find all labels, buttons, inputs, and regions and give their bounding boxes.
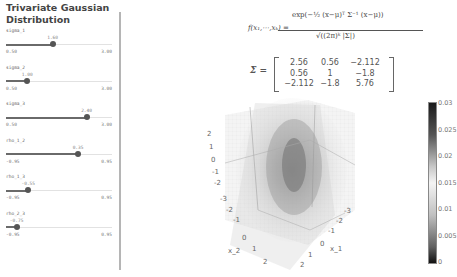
- slider-rho-1-3[interactable]: rho_1_3 -0.55 -0.95 0.95: [6, 174, 112, 210]
- 3d-volume-plot[interactable]: 2 1 0 -1 -2 -3 -2 -1 0 1 2 x_2 2 1 0 -1 …: [200, 95, 415, 277]
- colorbar-tick: 0.015: [438, 179, 457, 187]
- slider-label: sigma_2: [6, 65, 25, 70]
- matrix-cell: 0.56: [317, 58, 343, 69]
- x2-axis-label: x_2: [228, 247, 240, 255]
- slider-min: -0.95: [6, 232, 20, 237]
- slider-thumb[interactable]: [25, 187, 31, 193]
- colorbar-tick: 0.02: [438, 152, 452, 160]
- z-tick: -2: [214, 179, 221, 187]
- colorbar-tick: 0.03: [438, 99, 452, 107]
- matrix-grid: 2.560.56−2.1120.561−1.8−2.112−1.85.76: [281, 58, 387, 90]
- slider-min: -0.95: [6, 159, 20, 164]
- x1-tick: 1: [308, 251, 312, 259]
- slider-value: -0.55: [21, 181, 35, 186]
- slider-fill: [6, 153, 78, 155]
- x2-tick: -2: [226, 206, 233, 214]
- slider-label: rho_1_2: [6, 138, 25, 143]
- colorbar-tick: 0.01: [438, 205, 452, 213]
- pdf-formula: f(x₁,⋯,xₖ) = exp(−½ (x−μ)ᵀ Σ⁻¹ (x−μ)) √(…: [248, 8, 428, 58]
- x2-tick: -1: [233, 216, 240, 224]
- x2-tick: 0: [242, 234, 246, 242]
- slider-min: 0.50: [6, 86, 17, 91]
- slider-thumb[interactable]: [24, 78, 30, 84]
- formula-lhs: f(x₁,⋯,xₖ) =: [248, 24, 289, 32]
- x1-tick: -1: [328, 227, 335, 235]
- matrix-cell: −1.8: [343, 69, 387, 80]
- slider-max: 3.00: [101, 86, 112, 91]
- slider-track[interactable]: [6, 227, 112, 228]
- colorbar-tick: 0.025: [438, 126, 457, 134]
- colorbar-tick: 0: [438, 258, 442, 266]
- z-tick: -1: [212, 168, 219, 176]
- matrix-cell: −2.112: [281, 79, 317, 90]
- x2-tick: 2: [263, 258, 267, 266]
- slider-max: 3.00: [101, 49, 112, 54]
- slider-thumb[interactable]: [14, 224, 20, 230]
- colorbar: [428, 102, 437, 264]
- slider-label: rho_2_3: [6, 211, 25, 216]
- matrix-label: Σ =: [250, 65, 267, 75]
- z-tick: 2: [207, 130, 211, 138]
- slider-min: 0.50: [6, 122, 17, 127]
- slider-thumb[interactable]: [50, 41, 56, 47]
- slider-value: -0.75: [10, 218, 24, 223]
- colorbar-tick: 0.005: [438, 232, 457, 240]
- z-tick: 1: [209, 143, 213, 151]
- x2-tick: 1: [252, 245, 256, 253]
- slider-sigma-3[interactable]: sigma_3 2.40 0.50 3.00: [6, 101, 112, 137]
- slider-value: 1.00: [22, 72, 33, 77]
- left-bracket: [274, 57, 279, 92]
- matrix-cell: 0.56: [281, 69, 317, 80]
- formula-denominator: √((2π)ᵏ |Σ|): [316, 32, 355, 40]
- z-tick: 0: [211, 156, 215, 164]
- fraction-bar: [278, 30, 423, 31]
- controls-sidebar: Trivariate Gaussian Distribution sigma_1…: [0, 0, 118, 277]
- x1-tick: -2: [336, 217, 343, 225]
- slider-rho-2-3[interactable]: rho_2_3 -0.75 -0.95 0.95: [6, 211, 112, 247]
- app-title: Trivariate Gaussian Distribution: [6, 2, 116, 26]
- slider-sigma-1[interactable]: sigma_1 1.60 0.50 3.00: [6, 28, 112, 64]
- slider-min: 0.50: [6, 49, 17, 54]
- slider-max: 0.95: [101, 159, 112, 164]
- slider-max: 0.95: [101, 195, 112, 200]
- slider-label: sigma_1: [6, 28, 25, 33]
- matrix-cell: 1: [317, 69, 343, 80]
- matrix-cell: −1.8: [317, 79, 343, 90]
- slider-label: rho_1_3: [6, 174, 25, 179]
- slider-label: sigma_3: [6, 101, 25, 106]
- slider-value: 2.40: [81, 108, 92, 113]
- x2-tick: -3: [220, 195, 227, 203]
- right-bracket: [389, 57, 394, 92]
- slider-min: -0.95: [6, 195, 20, 200]
- slider-rho-1-2[interactable]: rho_1_2 0.35 -0.95 0.95: [6, 138, 112, 174]
- slider-sigma-2[interactable]: sigma_2 1.00 0.50 3.00: [6, 65, 112, 101]
- slider-fill: [6, 117, 87, 119]
- slider-value: 1.60: [47, 35, 58, 40]
- slider-thumb[interactable]: [75, 151, 81, 157]
- x1-axis-label: x_1: [330, 245, 342, 253]
- slider-max: 0.95: [101, 232, 112, 237]
- x1-tick: 0: [320, 240, 324, 248]
- slider-fill: [6, 44, 53, 46]
- x1-tick: -3: [344, 207, 351, 215]
- formula-numerator: exp(−½ (x−μ)ᵀ Σ⁻¹ (x−μ)): [292, 11, 383, 19]
- matrix-cell: 2.56: [281, 58, 317, 69]
- matrix-cell: 5.76: [343, 79, 387, 90]
- slider-max: 3.00: [101, 122, 112, 127]
- sidebar-divider[interactable]: [119, 12, 121, 270]
- x1-tick: 2: [300, 261, 304, 269]
- matrix-cell: −2.112: [343, 58, 387, 69]
- slider-value: 0.35: [73, 145, 84, 150]
- slider-thumb[interactable]: [84, 114, 90, 120]
